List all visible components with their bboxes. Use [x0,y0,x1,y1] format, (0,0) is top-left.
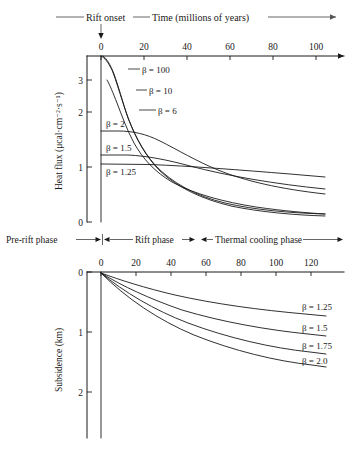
phase-arrow-thermal-left-icon [201,237,207,242]
heat-flux-curve-beta-6 [107,80,325,214]
rift-onset-arrow-icon [98,33,103,39]
heat-flux-label-beta-6: β = 6 [158,106,177,116]
heat-flux-ytick-2: 2 [78,108,83,118]
subsidence-x-tick-labels: 0 20 40 60 80 100 120 [99,258,319,268]
subsidence-xtick-120: 120 [304,258,319,268]
heat-flux-label-beta-1p5: β = 1.5 [106,143,132,153]
subsidence-chart: 0 20 40 60 80 100 120 0 1 2 Subsidence (… [54,258,344,438]
subsidence-label-beta-2p0: β = 2.0 [302,356,328,366]
subsidence-ytick-1: 1 [78,328,83,338]
phase-label-thermal-cooling: Thermal cooling phase [215,235,302,245]
header-arrow-icon [330,14,336,20]
heat-flux-xtick-100: 100 [309,42,324,52]
heat-flux-label-beta-2: β = 2 [106,119,125,129]
subsidence-xtick-20: 20 [131,258,141,268]
heat-flux-label-beta-10: β = 10 [149,86,173,96]
heat-flux-y-ticks [87,80,92,222]
subsidence-label-beta-1p5: β = 1.5 [302,323,328,333]
heat-flux-x-ticks [101,56,316,60]
subsidence-curve-beta-1p25 [101,273,326,316]
heat-flux-ytick-3: 3 [78,76,83,86]
subsidence-xtick-60: 60 [201,258,211,268]
heat-flux-y-axis-title: Heat flux (μcal·cm⁻²·s⁻¹) [54,92,65,190]
heat-flux-y-tick-labels: 0 1 2 3 [78,76,83,228]
phase-arrow-rift-right-icon [190,237,196,242]
heat-flux-x-tick-labels: 0 20 40 60 80 100 [99,42,324,52]
subsidence-xtick-100: 100 [269,258,284,268]
phase-label-pre-rift: Pre-rift phase [6,235,57,245]
subsidence-curve-beta-2p0 [101,273,326,367]
subsidence-y-tick-labels: 0 1 2 [78,268,83,398]
subsidence-y-ticks [87,272,92,392]
phase-arrow-thermal-right-icon [338,237,344,242]
subsidence-xtick-0: 0 [99,258,104,268]
heat-flux-curve-beta-2 [101,131,325,194]
subsidence-label-beta-1p75: β = 1.75 [302,341,332,351]
heat-flux-ytick-1: 1 [78,163,83,173]
phase-bar: Pre-rift phase Rift phase Thermal coolin… [6,234,343,245]
subsidence-x-ticks [101,272,311,276]
subsidence-ytick-0: 0 [78,268,83,278]
time-axis-label: Time (millions of years) [152,12,249,24]
figure-container: Rift onset Time (millions of years) 0 20… [0,0,354,452]
heat-flux-curve-beta-10 [103,56,325,216]
subsidence-label-beta-1p25: β = 1.25 [302,302,332,312]
subsidence-y-axis-title: Subsidence (km) [54,328,65,392]
heat-flux-xtick-80: 80 [268,42,278,52]
heat-flux-xtick-20: 20 [139,42,149,52]
rift-onset-label: Rift onset [86,12,125,23]
phase-arrow-rift-left-icon [104,237,110,242]
phase-arrow-pre-rift-icon [96,237,102,242]
heat-flux-xtick-0: 0 [99,42,104,52]
heat-flux-x-axis-arrow-icon [338,53,344,59]
phase-label-rift: Rift phase [135,235,174,245]
heat-flux-xtick-40: 40 [182,42,192,52]
heat-flux-chart: 0 20 40 60 80 100 0 1 2 3 Heat flux (μca… [54,42,344,228]
subsidence-xtick-40: 40 [166,258,176,268]
heat-flux-label-beta-1p25: β = 1.25 [106,167,136,177]
subsidence-ytick-2: 2 [78,388,83,398]
heat-flux-ytick-0: 0 [78,218,83,228]
subsidence-curve-beta-1p5 [101,273,326,336]
heat-flux-curve-beta-100 [101,56,325,214]
heat-flux-label-beta-100: β = 100 [142,65,170,75]
figure-header: Rift onset Time (millions of years) [56,12,336,40]
subsidence-xtick-80: 80 [236,258,246,268]
heat-flux-xtick-60: 60 [225,42,235,52]
